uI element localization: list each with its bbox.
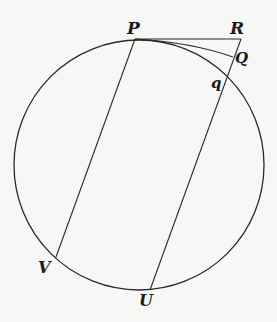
label-Q: Q <box>235 49 248 67</box>
geometry-diagram: P R Q q V U <box>0 0 277 322</box>
label-V: V <box>38 258 52 277</box>
line-RU <box>150 39 241 290</box>
label-R: R <box>229 18 244 38</box>
label-U: U <box>139 291 154 310</box>
label-P: P <box>126 18 141 38</box>
chord-PV <box>56 39 135 257</box>
diagram-canvas: P R Q q V U <box>0 0 277 322</box>
label-q: q <box>211 74 222 92</box>
